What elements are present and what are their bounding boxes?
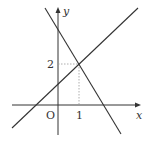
y-tick-label: 2: [47, 58, 54, 71]
y-axis-label: y: [62, 5, 70, 18]
decreasing-line: [45, 8, 121, 134]
x-axis-label: x: [136, 109, 143, 122]
x-axis-arrow-icon: [135, 103, 141, 108]
increasing-line: [12, 8, 138, 128]
origin-label: O: [46, 109, 55, 122]
y-axis-arrow-icon: [56, 7, 61, 13]
x-tick-label: 1: [76, 109, 83, 122]
coordinate-graph: y x O 1 2: [0, 0, 151, 142]
